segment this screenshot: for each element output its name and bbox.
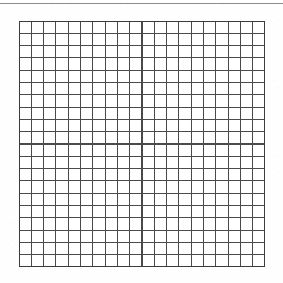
grid-worksheet[interactable] xyxy=(19,21,265,267)
document-page xyxy=(0,0,283,283)
grid-lines xyxy=(19,21,265,267)
top-horizontal-rule xyxy=(0,3,283,4)
